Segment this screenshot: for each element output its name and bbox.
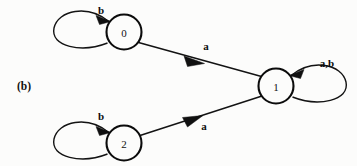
state-label-1: 1 xyxy=(273,81,279,93)
edge-0-0-self-loop xyxy=(54,11,111,48)
arrowhead-2-1 xyxy=(183,116,204,128)
state-label-2: 2 xyxy=(121,138,127,150)
edge-label-2-2: b xyxy=(98,110,104,122)
edge-2-2-self-loop xyxy=(54,122,111,159)
edge-label-0-0: b xyxy=(98,4,104,16)
edge-0-1 xyxy=(139,43,262,77)
panel-caption: (b) xyxy=(17,80,31,93)
edge-line-0-1 xyxy=(139,43,262,77)
state-label-0: 0 xyxy=(121,27,127,39)
automaton-canvas: b a b a a,b 0 1 2 ( xyxy=(0,0,357,166)
edge-label-1-1: a,b xyxy=(320,57,334,69)
edge-label-2-1: a xyxy=(201,120,207,132)
edge-label-0-1: a xyxy=(203,40,209,52)
self-loop-path-state-2 xyxy=(54,122,110,159)
self-loop-path-state-0 xyxy=(54,11,110,48)
automaton-figure: b a b a a,b 0 1 2 ( xyxy=(0,0,357,166)
self-loop-path-state-1 xyxy=(291,65,347,102)
edge-1-1-self-loop xyxy=(289,65,346,102)
